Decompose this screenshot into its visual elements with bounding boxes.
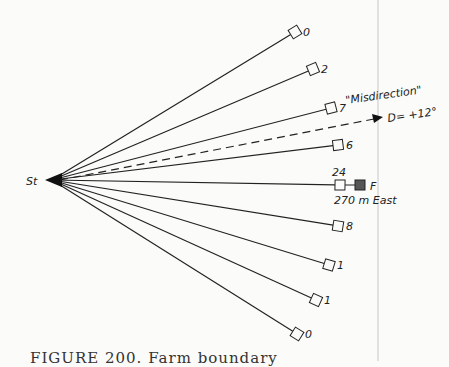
- ray-count-label: 8: [346, 220, 353, 233]
- deviation-label: D= +12°: [387, 105, 438, 125]
- vanishing-point-box: [325, 102, 337, 114]
- ray-count-label: 2: [321, 63, 328, 76]
- misdirection-arrow: [60, 119, 374, 180]
- home-label: F: [370, 180, 377, 193]
- figure-caption: FIGURE 200. Farm boundary: [30, 349, 278, 367]
- vanishing-point-box: [306, 62, 319, 75]
- ray-line: [52, 180, 293, 331]
- ray-line: [52, 109, 326, 180]
- vanishing-point-box: [332, 139, 343, 150]
- ray-line: [52, 180, 311, 298]
- ray-count-label: 1: [324, 294, 331, 307]
- vanishing-point-box: [309, 293, 322, 306]
- distance-label: 270 m East: [334, 194, 397, 207]
- home-loft-marker: [355, 180, 365, 190]
- release-point-marker: [45, 173, 62, 187]
- ray-line: [52, 146, 333, 180]
- ray-count-label: 0: [305, 328, 312, 341]
- vanishing-point-box: [290, 327, 304, 341]
- vanishing-point-box: [323, 259, 335, 271]
- misdirection-label: "Misdirection": [345, 83, 423, 107]
- ray-count-label: 0: [303, 26, 310, 39]
- ray-line: [52, 35, 291, 180]
- vanishing-point-box: [332, 220, 343, 231]
- vanishing-point-box: [335, 180, 345, 190]
- ray-line: [52, 180, 333, 225]
- ray-count-label: 7: [339, 102, 346, 115]
- ray-line: [52, 71, 308, 180]
- ray-count-label: 6: [346, 139, 353, 152]
- vanishing-point-box: [288, 25, 302, 39]
- ray-count-label: 24: [332, 166, 346, 179]
- ray-count-label: 1: [337, 259, 344, 272]
- release-rays: 0276248110: [52, 25, 353, 341]
- release-site-label: St: [26, 175, 38, 188]
- ray-line: [52, 180, 324, 264]
- ray-line: [52, 180, 335, 185]
